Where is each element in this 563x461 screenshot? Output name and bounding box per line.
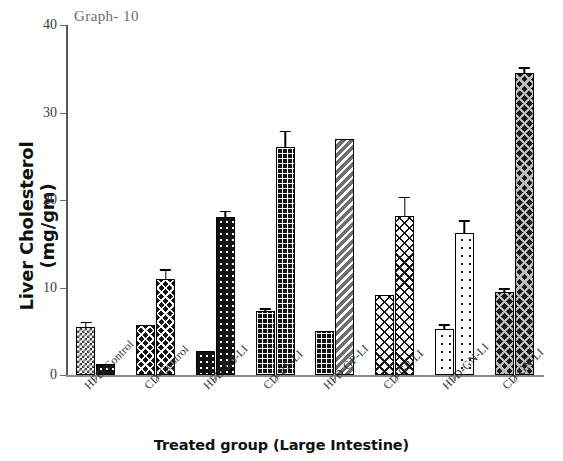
- plot-area: 010203040: [66, 25, 544, 376]
- x-axis-line: [66, 375, 544, 377]
- bar[interactable]: [256, 311, 275, 375]
- y-tick-label: 0: [50, 367, 57, 383]
- bar-item[interactable]: [256, 311, 275, 375]
- bar[interactable]: [375, 295, 394, 375]
- y-tick-label: 10: [43, 280, 57, 296]
- bar-group: [255, 147, 295, 375]
- bar[interactable]: [276, 147, 295, 375]
- bar[interactable]: [335, 139, 354, 375]
- bar[interactable]: [435, 329, 454, 375]
- y-axis-title: Liver Cholesterol (mg/gm): [16, 111, 58, 341]
- bar-item[interactable]: [276, 147, 295, 375]
- bar-group: [494, 73, 534, 375]
- bar[interactable]: [76, 327, 95, 375]
- bar-item[interactable]: [375, 295, 394, 375]
- bar-item[interactable]: [335, 139, 354, 375]
- bar-group: [375, 216, 415, 375]
- bar-group: [195, 217, 235, 375]
- chart-figure: Liver Cholesterol (mg/gm) Graph- 10 0102…: [0, 0, 563, 461]
- y-tick-label: 20: [43, 192, 57, 208]
- bar[interactable]: [515, 73, 534, 375]
- y-tick-label: 40: [43, 17, 57, 33]
- y-tick-label: 30: [43, 105, 57, 121]
- bar-item[interactable]: [435, 329, 454, 375]
- x-axis-title: Treated group (Large Intestine): [0, 437, 563, 453]
- y-axis-line: [66, 25, 68, 376]
- bar[interactable]: [495, 292, 514, 375]
- bar-item[interactable]: [136, 325, 155, 375]
- y-tick-mark: [60, 200, 66, 201]
- y-tick-mark: [60, 25, 66, 26]
- y-tick-mark: [60, 288, 66, 289]
- y-tick-mark: [60, 113, 66, 114]
- y-tick-mark: [60, 375, 66, 376]
- graph-caption: Graph- 10: [74, 8, 139, 25]
- bar[interactable]: [136, 325, 155, 375]
- bar-item[interactable]: [515, 73, 534, 375]
- bar[interactable]: [315, 331, 334, 375]
- bar-item[interactable]: [315, 331, 334, 375]
- bar-group: [315, 139, 355, 375]
- bar-item[interactable]: [76, 327, 95, 375]
- bar-item[interactable]: [495, 292, 514, 375]
